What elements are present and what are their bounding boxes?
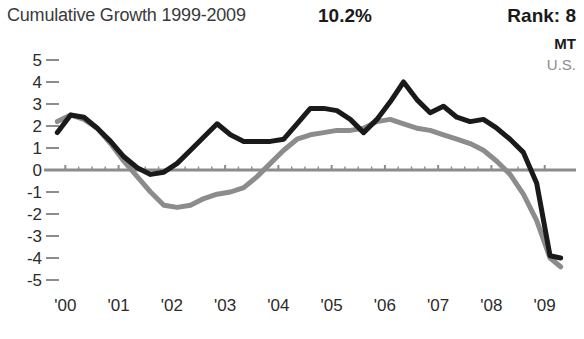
x-axis-tick-label: '01 <box>108 296 130 316</box>
x-axis-tick-label: '06 <box>374 296 396 316</box>
x-axis-tick-label: '07 <box>427 296 449 316</box>
series-line-us <box>57 115 560 267</box>
chart-header: Cumulative Growth 1999-2009 10.2% Rank: … <box>0 2 584 32</box>
x-axis-tick-label: '03 <box>214 296 236 316</box>
x-axis-tick-label: '00 <box>54 296 76 316</box>
x-axis-tick-label: '05 <box>321 296 343 316</box>
x-axis-labels: '00'01'02'03'04'05'06'07'08'09 <box>0 296 584 328</box>
x-axis-tick-label: '08 <box>480 296 502 316</box>
x-axis-tick-label: '04 <box>267 296 289 316</box>
plot-area: 543210-1-2-3-4-5 <box>0 42 584 300</box>
series-plot <box>0 42 584 300</box>
page-title: Cumulative Growth 1999-2009 <box>7 5 246 26</box>
rank-value: Rank: 8 <box>507 5 576 27</box>
growth-percent-value: 10.2% <box>318 5 372 27</box>
x-axis-tick-label: '02 <box>161 296 183 316</box>
x-axis-tick-label: '09 <box>534 296 556 316</box>
chart-container: Cumulative Growth 1999-2009 10.2% Rank: … <box>0 0 584 339</box>
